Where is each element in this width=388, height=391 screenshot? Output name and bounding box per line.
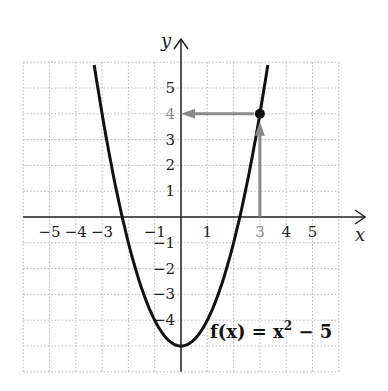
function-label: f(x) = x2 − 5 [210, 319, 332, 342]
tick-labels: −5−4−3−1134554321−1−2−3−4 [38, 79, 317, 329]
x-tick-label: 1 [203, 223, 213, 241]
y-tick-label: 3 [165, 131, 175, 149]
x-tick-label: −4 [65, 223, 87, 241]
arrowhead-icon [181, 109, 195, 119]
y-tick-label: −1 [153, 234, 175, 252]
function-graph: −5−4−3−1134554321−1−2−3−4 x y f(x) = x2 … [0, 0, 388, 391]
x-tick-label: 5 [308, 223, 318, 241]
x-tick-label: 4 [281, 223, 291, 241]
function-label-exponent: 2 [284, 319, 292, 333]
y-tick-label: −2 [153, 260, 175, 278]
y-tick-label: 4 [165, 105, 175, 123]
y-tick-label: −3 [153, 285, 175, 303]
y-tick-label: 1 [165, 182, 175, 200]
x-tick-label: −5 [38, 223, 60, 241]
function-label-rest: − 5 [292, 321, 332, 342]
y-tick-label: 5 [165, 79, 175, 97]
y-tick-label: 2 [165, 156, 175, 174]
function-label-base: f(x) = x [210, 321, 284, 342]
x-tick-label: −3 [91, 223, 113, 241]
y-axis-label: y [160, 30, 172, 51]
x-tick-label: 3 [255, 223, 265, 241]
highlight-point [255, 109, 265, 119]
x-axis-label: x [355, 224, 365, 245]
